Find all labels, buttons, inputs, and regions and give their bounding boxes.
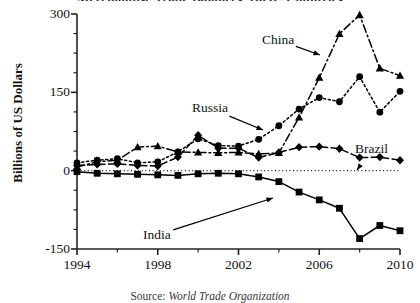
y-tick: -150 <box>20 242 70 243</box>
series-marker-india <box>397 227 404 234</box>
y-tick: 150 <box>20 85 70 86</box>
annotation-arrowhead-china <box>313 50 320 55</box>
series-marker-india <box>255 174 262 181</box>
series-marker-brazil <box>255 153 263 161</box>
series-marker-russia <box>376 109 383 116</box>
series-label-india: India <box>143 228 171 242</box>
series-marker-india <box>376 222 383 229</box>
series-marker-india <box>195 170 202 177</box>
series-marker-india <box>175 172 182 179</box>
x-tick-label: 2010 <box>370 258 420 272</box>
series-marker-india <box>74 168 81 175</box>
y-tick-label: 300 <box>22 7 70 21</box>
series-marker-brazil <box>315 142 323 150</box>
series-marker-russia <box>356 73 363 80</box>
series-marker-brazil <box>396 156 404 164</box>
series-marker-india <box>134 171 141 178</box>
series-marker-russia <box>296 106 303 113</box>
series-marker-india <box>215 170 222 177</box>
series-marker-india <box>356 235 363 242</box>
y-tick-label: 0 <box>22 164 70 178</box>
annotation-arrowhead-russia <box>256 125 263 130</box>
y-tick-label: 150 <box>22 85 70 99</box>
series-marker-india <box>336 205 343 212</box>
series-marker-russia <box>275 122 282 129</box>
series-marker-india <box>235 170 242 177</box>
y-tick: 300 <box>20 7 70 8</box>
x-tick-label: 2006 <box>289 258 349 272</box>
source-prefix: Source: <box>130 290 165 302</box>
series-marker-china <box>315 74 323 81</box>
source-body: World Trade Organization <box>166 290 290 302</box>
x-tick-label: 1998 <box>128 258 188 272</box>
y-tick: 0 <box>20 164 70 165</box>
series-marker-india <box>154 171 161 178</box>
annotation-leader-india <box>173 198 273 230</box>
series-label-china: China <box>262 33 294 47</box>
series-marker-china <box>376 64 384 71</box>
series-marker-india <box>94 170 101 177</box>
source-note: Source: World Trade Organization <box>0 290 420 303</box>
series-label-brazil: Brazil <box>355 142 388 156</box>
series-line-india <box>77 172 400 239</box>
annotation-arrowhead-india <box>266 197 273 202</box>
chart-container: Merchandise Trade Balances, BRIC Countri… <box>0 0 420 303</box>
series-marker-russia <box>255 136 262 143</box>
series-marker-china <box>356 11 364 18</box>
series-marker-brazil <box>335 145 343 153</box>
series-marker-russia <box>336 98 343 105</box>
series-marker-india <box>316 197 323 204</box>
y-tick-label: -150 <box>22 242 70 256</box>
series-marker-china <box>295 113 303 120</box>
annotation-arrowhead-brazil <box>357 163 363 170</box>
series-marker-india <box>296 189 303 196</box>
series-marker-india <box>275 178 282 185</box>
series-marker-russia <box>397 88 404 95</box>
series-marker-russia <box>316 94 323 101</box>
x-tick-label: 1994 <box>47 258 107 272</box>
series-label-russia: Russia <box>192 101 228 115</box>
series-marker-india <box>114 170 121 177</box>
series-marker-brazil <box>295 143 303 151</box>
x-tick-label: 2002 <box>209 258 269 272</box>
